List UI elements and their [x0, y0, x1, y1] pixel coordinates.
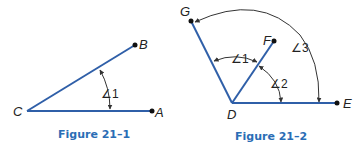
point-b-dot: [133, 43, 138, 48]
angle-2-label: ∠2: [270, 77, 288, 91]
figures-canvas: ∠1 C A B Figure 21–1 ∠1 ∠2 ∠3 D E F G Fi…: [0, 0, 361, 144]
figure-21-2-caption: Figure 21–2: [235, 130, 307, 143]
point-d-label: D: [227, 107, 236, 122]
point-b-label: B: [139, 37, 148, 52]
figure-21-2: ∠1 ∠2 ∠3 D E F G Figure 21–2: [180, 4, 352, 143]
point-e-dot: [335, 101, 340, 106]
figure-21-1: ∠1 C A B Figure 21–1: [13, 37, 164, 141]
point-f-dot: [272, 39, 277, 44]
point-a-dot: [150, 109, 155, 114]
ray-df: [232, 41, 274, 103]
ray-dg: [191, 21, 232, 103]
point-c-label: C: [13, 104, 23, 119]
angle-1-label: ∠1: [101, 87, 119, 101]
angle-3-label: ∠3: [291, 41, 309, 55]
point-f-label: F: [263, 33, 272, 48]
point-g-label: G: [180, 4, 190, 19]
point-a-label: A: [154, 105, 164, 120]
angle-1-label: ∠1: [231, 52, 249, 66]
point-g-dot: [189, 19, 194, 24]
angle-3-arc: [195, 10, 319, 102]
ray-cb: [27, 45, 135, 111]
figure-21-1-caption: Figure 21–1: [58, 128, 130, 141]
point-e-label: E: [343, 96, 352, 111]
